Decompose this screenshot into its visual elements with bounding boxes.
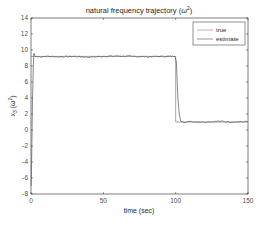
y-label-close: ): [9, 95, 17, 97]
y-tick-label: 8: [24, 62, 28, 69]
x-tick-label: 100: [170, 197, 181, 204]
y-axis-label: x3 (ω2): [7, 95, 18, 116]
legend-label-true: true: [216, 27, 227, 33]
legend-label-estimate: estimate: [216, 36, 239, 42]
y-tick-label: 0: [24, 126, 28, 133]
x-tick-label: 150: [243, 197, 254, 204]
y-tick-label: 10: [21, 46, 29, 53]
y-tick-label: -2: [22, 142, 28, 149]
y-tick-label: -8: [22, 190, 28, 197]
y-label-paren: (ω: [9, 100, 17, 110]
y-tick-label: 6: [24, 78, 28, 85]
svg-text:natural frequency trajectory (: natural frequency trajectory (ω2): [86, 5, 193, 15]
x-tick-label: 0: [29, 197, 33, 204]
title-close: ): [190, 6, 193, 15]
y-tick-label: 14: [21, 14, 29, 21]
y-tick-label: 2: [24, 110, 28, 117]
chart-title: natural frequency trajectory (ω2): [86, 5, 193, 15]
svg-text:x3 (ω2): x3 (ω2): [7, 95, 18, 116]
title-text: natural frequency trajectory (: [86, 6, 182, 15]
x-tick-label: 50: [100, 197, 108, 204]
y-tick-label: -4: [22, 158, 28, 165]
y-tick-label: 12: [21, 30, 29, 37]
x-axis-label: time (sec): [124, 207, 155, 215]
legend: true estimate: [193, 22, 245, 45]
y-tick-label: -6: [22, 174, 28, 181]
y-tick-label: 4: [24, 94, 28, 101]
chart: natural frequency trajectory (ω2) -8-6-4…: [0, 0, 259, 231]
